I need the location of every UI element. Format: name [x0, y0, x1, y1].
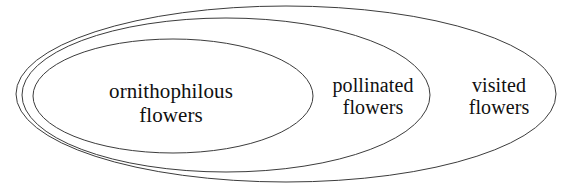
label-visited-flowers: visited flowers — [444, 74, 554, 119]
label-ornithophilous-line-1: ornithophilous — [61, 80, 281, 104]
euler-diagram: ornithophilous flowers pollinated flower… — [0, 0, 571, 190]
label-ornithophilous-flowers: ornithophilous flowers — [61, 80, 281, 127]
label-pollinated-line-1: pollinated — [312, 74, 434, 96]
label-visited-line-1: visited — [444, 74, 554, 96]
label-visited-line-2: flowers — [444, 96, 554, 118]
label-pollinated-flowers: pollinated flowers — [312, 74, 434, 119]
label-ornithophilous-line-2: flowers — [61, 104, 281, 128]
label-pollinated-line-2: flowers — [312, 96, 434, 118]
